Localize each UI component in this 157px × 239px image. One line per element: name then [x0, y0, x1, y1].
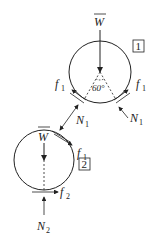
circle-1-group: W 1 60° f 1 f 1 N 1: [55, 14, 146, 127]
friction-right-label-1: f: [136, 77, 141, 91]
ground-normal-label: N: [36, 219, 46, 233]
normal-right-label-1: N: [129, 111, 139, 125]
circle-2-group: W f 1 2 f 2 N 2: [14, 127, 90, 235]
friction-left-label-1: f: [55, 77, 60, 91]
svg-text:1: 1: [85, 120, 89, 129]
angle-label: 60°: [92, 83, 105, 93]
box-label-2: 2: [82, 158, 88, 170]
svg-text:2: 2: [46, 226, 50, 235]
svg-text:2: 2: [66, 192, 70, 201]
weight-label-2: W: [38, 130, 49, 144]
free-body-diagram: W 1 60° f 1 f 1 N 1 N 1 W: [0, 0, 157, 239]
svg-text:1: 1: [142, 84, 146, 93]
box-label-1: 1: [136, 40, 142, 52]
ground-friction-label: f: [60, 185, 65, 199]
contact-normal-label: N: [75, 113, 85, 127]
contact-normal: N 1: [60, 105, 89, 130]
svg-text:1: 1: [139, 118, 143, 127]
weight-label-1: W: [94, 15, 105, 29]
svg-text:1: 1: [61, 84, 65, 93]
